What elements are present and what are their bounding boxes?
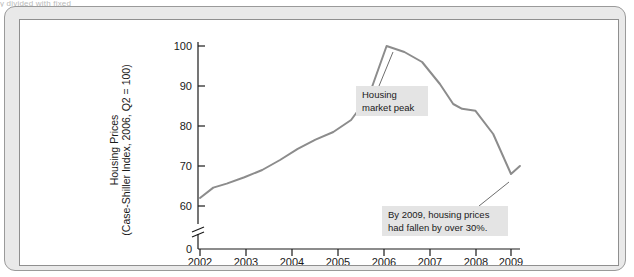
x-tick-label-2008: 2008: [464, 256, 488, 265]
y-tick-label-70: 70: [180, 160, 192, 172]
y-axis-title-line2: (Case-Shiller Index, 2006, Q2 = 100): [120, 64, 132, 235]
peak-annotation-line2: market peak: [362, 102, 415, 113]
x-tick-label-2002: 2002: [188, 256, 212, 265]
peak-leader-line: [379, 52, 393, 86]
y-axis-break-mark-1: [192, 227, 204, 232]
x-tick-label-2003: 2003: [234, 256, 258, 265]
decline-leader-line: [479, 182, 509, 206]
housing-price-series: [200, 46, 520, 198]
y-tick-label-100: 100: [174, 40, 192, 52]
decline-annotation-line2: had fallen by over 30%.: [388, 222, 487, 233]
x-tick-label-2007: 2007: [418, 256, 442, 265]
chart-panel: Housing Prices (Case-Shiller Index, 2006…: [19, 19, 619, 266]
figure-outer-panel: Housing Prices (Case-Shiller Index, 2006…: [4, 6, 626, 271]
y-tick-label-60: 60: [180, 200, 192, 212]
y-tick-label-80: 80: [180, 120, 192, 132]
peak-annotation-line1: Housing: [362, 89, 397, 100]
housing-prices-line-chart: Housing Prices (Case-Shiller Index, 2006…: [20, 20, 618, 265]
y-tick-label-0: 0: [186, 243, 192, 255]
x-tick-label-2005: 2005: [326, 256, 350, 265]
y-tick-label-90: 90: [180, 80, 192, 92]
x-tick-label-2004: 2004: [280, 256, 304, 265]
y-axis-title-line1: Housing Prices: [108, 115, 120, 186]
decline-annotation-line1: By 2009, housing prices: [388, 209, 490, 220]
x-tick-label-2006: 2006: [372, 256, 396, 265]
x-tick-label-2009: 2009: [499, 256, 523, 265]
